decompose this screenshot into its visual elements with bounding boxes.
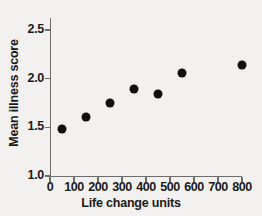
y-tick-label: 1.0 [28,168,44,182]
x-tick-label: 100 [64,180,84,194]
data-point [238,61,247,70]
plot-area [50,18,242,176]
data-point [130,85,139,94]
x-tick-label: 400 [136,180,156,194]
y-axis-title: Mean illness score [7,23,21,163]
data-point [154,90,163,99]
x-tick-label: 200 [88,180,108,194]
x-axis-title: Life change units [0,196,262,210]
data-point [178,68,187,77]
x-tick-label: 600 [184,180,204,194]
x-tick-label: 500 [160,180,180,194]
data-point [106,99,115,108]
data-point [58,125,67,134]
x-tick-label: 300 [112,180,132,194]
x-tick-label: 0 [47,180,54,194]
y-tick-label: 2.0 [28,71,44,85]
x-tick-label: 700 [208,180,228,194]
data-point [82,112,91,121]
scatter-plot-figure: 1.01.52.02.5 0100200300400500600700800 L… [0,0,262,216]
y-tick-label: 1.5 [28,119,44,133]
y-tick-label: 2.5 [28,22,44,36]
x-tick-label: 800 [232,180,252,194]
y-tick-label-wrap: 1.0 [14,168,44,182]
